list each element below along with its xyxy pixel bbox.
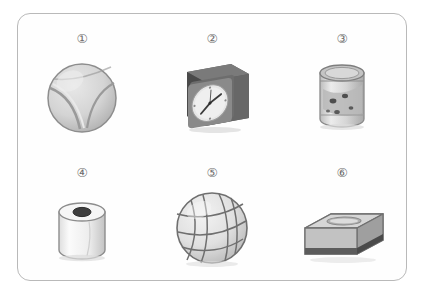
item-cell-5: ⑤ bbox=[147, 147, 277, 281]
item-cell-4: ④ bbox=[17, 147, 147, 281]
worksheet: ① bbox=[0, 0, 426, 296]
paper-roll-icon bbox=[27, 188, 137, 274]
tin-can-icon bbox=[287, 51, 397, 137]
item-cell-3: ③ bbox=[277, 13, 407, 147]
item-number-2: ② bbox=[206, 33, 217, 46]
item-number-3: ③ bbox=[336, 33, 347, 46]
tennis-ball-icon bbox=[27, 53, 137, 139]
item-number-5: ⑤ bbox=[206, 167, 217, 180]
item-number-4: ④ bbox=[76, 167, 87, 180]
tissue-box-icon bbox=[287, 192, 397, 278]
item-cell-1: ① bbox=[17, 13, 147, 147]
item-cell-2: ② bbox=[147, 13, 277, 147]
item-number-1: ① bbox=[76, 33, 87, 46]
item-number-6: ⑥ bbox=[336, 167, 347, 180]
volleyball-icon bbox=[157, 184, 267, 270]
item-grid: ① bbox=[17, 13, 407, 281]
item-cell-6: ⑥ bbox=[277, 147, 407, 281]
cube-alarm-clock-icon bbox=[157, 50, 267, 136]
